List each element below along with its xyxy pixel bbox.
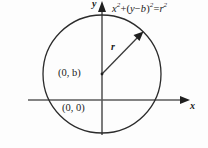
y-axis-label: y [92, 0, 96, 9]
radius-label: r [111, 42, 115, 52]
origin-label: (0, 0) [62, 103, 85, 114]
equation-r-exponent: 2 [164, 1, 168, 9]
x-axis-label: x [190, 101, 195, 111]
x-axis-arrowhead [180, 96, 190, 104]
y-axis-arrowhead [98, 1, 106, 12]
center-point-marker [101, 73, 104, 76]
diagram-canvas [0, 0, 208, 148]
circle-center-label: (0, b) [58, 68, 81, 79]
circle-equation-diagram: x2+(y−b)2=r2 y x (0, b) (0, 0) r [0, 0, 208, 148]
circle-equation: x2+(y−b)2=r2 [112, 2, 167, 14]
radius-line [102, 36, 139, 74]
